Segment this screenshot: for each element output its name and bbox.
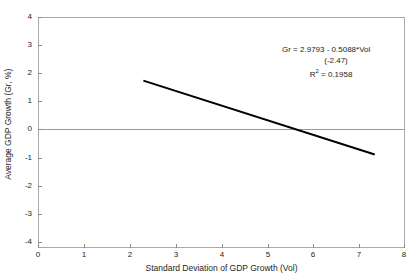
zero-reference-line	[38, 129, 405, 130]
x-tick-label: 0	[36, 251, 40, 259]
x-tick-mark	[268, 244, 269, 248]
x-tick-mark	[313, 244, 314, 248]
y-tick-mark	[38, 242, 42, 243]
t-statistic-label: (-2.47)	[282, 55, 394, 66]
y-tick-mark	[38, 73, 42, 74]
y-tick-mark	[38, 186, 42, 187]
x-tick-mark	[38, 244, 39, 248]
x-tick-mark	[176, 244, 177, 248]
r-squared-value: = 0.1958	[319, 69, 353, 78]
y-tick-label: -3	[25, 210, 32, 218]
y-tick-label: -2	[25, 182, 32, 190]
regression-equation: Gr = 2.9793 - 0.5088*Vol	[282, 44, 394, 55]
x-tick-mark	[84, 244, 85, 248]
y-tick-mark	[38, 129, 42, 130]
y-tick-label: 4	[28, 13, 32, 21]
y-tick-label: 0	[28, 125, 32, 133]
x-tick-label: 7	[357, 251, 361, 259]
x-tick-label: 2	[128, 251, 132, 259]
x-tick-label: 5	[266, 251, 270, 259]
x-tick-label: 3	[174, 251, 178, 259]
r-squared-label: R2 = 0.1958	[282, 67, 394, 80]
y-tick-mark	[38, 17, 42, 18]
y-tick-mark	[38, 214, 42, 215]
y-tick-label: 3	[28, 41, 32, 49]
x-axis-title: Standard Deviation of GDP Growth (Vol)	[38, 264, 405, 273]
y-axis-title-text: Average GDP Growth (Gr, %)	[5, 68, 14, 179]
y-tick-mark	[38, 101, 42, 102]
x-tick-label: 4	[220, 251, 224, 259]
x-tick-mark	[359, 244, 360, 248]
y-tick-label: -1	[25, 154, 32, 162]
x-tick-mark	[404, 244, 405, 248]
x-tick-label: 1	[82, 251, 86, 259]
y-tick-label: 1	[28, 97, 32, 105]
y-tick-label: -4	[25, 238, 32, 246]
y-tick-mark	[38, 45, 42, 46]
regression-chart: 0 1 2 3 4 5 6 7 8 4 3 2 1 0 -1 -2 -3 -4 …	[0, 0, 420, 280]
regression-annotation: Gr = 2.9793 - 0.5088*Vol (-2.47) R2 = 0.…	[282, 44, 394, 80]
y-axis-title: Average GDP Growth (Gr, %)	[2, 0, 16, 248]
x-tick-mark	[222, 244, 223, 248]
y-tick-mark	[38, 158, 42, 159]
x-tick-label: 8	[402, 251, 406, 259]
x-tick-mark	[130, 244, 131, 248]
x-tick-label: 6	[311, 251, 315, 259]
y-tick-label: 2	[28, 69, 32, 77]
